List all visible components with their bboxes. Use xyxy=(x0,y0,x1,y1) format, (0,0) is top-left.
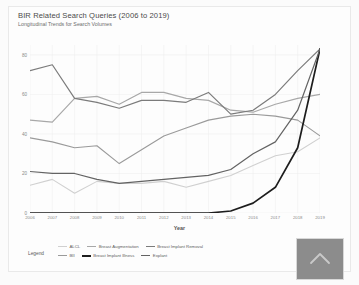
plot-area xyxy=(30,45,320,213)
legend-item[interactable]: Breast Implant Illness xyxy=(82,253,135,258)
y-tick-label: 40 xyxy=(22,131,27,136)
x-axis-title: Year xyxy=(0,225,359,231)
x-tick-label: 2014 xyxy=(204,215,214,220)
x-tick-label: 2010 xyxy=(114,215,124,220)
legend-swatch xyxy=(82,255,91,257)
x-tick-label: 2008 xyxy=(70,215,80,220)
y-tick-label: 80 xyxy=(22,52,27,57)
x-tick-label: 2007 xyxy=(48,215,58,220)
y-axis-tick-labels: 020406080 xyxy=(10,45,27,213)
legend-row: ALCLBreast AugmentationBreast Implant Re… xyxy=(58,242,258,251)
legend-item-label: Breast Augmentation xyxy=(99,244,139,249)
thumbnail-preview[interactable] xyxy=(296,238,344,280)
grid-lines xyxy=(30,45,320,213)
legend-item-label: ALCL xyxy=(70,244,81,249)
x-tick-label: 2009 xyxy=(92,215,102,220)
y-tick-label: 60 xyxy=(22,92,27,97)
y-tick-label: 20 xyxy=(22,171,27,176)
x-tick-label: 2012 xyxy=(159,215,169,220)
legend-row: BIIBreast Implant IllnessExplant xyxy=(58,251,258,260)
legend-swatch xyxy=(87,246,96,247)
legend-swatch xyxy=(141,255,150,256)
screenshot-root: BIR Related Search Queries (2006 to 2019… xyxy=(0,0,359,285)
legend-swatch xyxy=(58,246,67,247)
legend-item[interactable]: Explant xyxy=(141,253,167,258)
chart-title: BIR Related Search Queries (2006 to 2019… xyxy=(18,11,169,20)
legend-item-label: Breast Implant Removal xyxy=(157,244,203,249)
legend-items: ALCLBreast AugmentationBreast Implant Re… xyxy=(58,242,258,260)
legend-item-label: BII xyxy=(70,253,75,258)
x-tick-label: 2013 xyxy=(181,215,191,220)
x-tick-label: 2011 xyxy=(137,215,146,220)
legend-item[interactable]: ALCL xyxy=(58,244,80,249)
x-tick-label: 2019 xyxy=(315,215,325,220)
legend-item-label: Breast Implant Illness xyxy=(93,253,134,258)
x-axis-tick-labels: 2006200720082009201020112012201320142015… xyxy=(30,215,320,225)
x-tick-label: 2016 xyxy=(248,215,258,220)
legend-swatch xyxy=(58,255,67,256)
x-tick-label: 2018 xyxy=(293,215,303,220)
series-lines xyxy=(30,49,320,213)
chevron-up-icon xyxy=(297,239,343,279)
x-tick-label: 2017 xyxy=(271,215,281,220)
chart-subtitle: Longitudinal Trends for Search Volumes xyxy=(18,21,112,27)
legend-item[interactable]: Breast Augmentation xyxy=(87,244,138,249)
legend-swatch xyxy=(146,246,155,247)
x-tick-label: 2006 xyxy=(25,215,35,220)
legend-item-label: Explant xyxy=(153,253,167,258)
x-tick-label: 2015 xyxy=(226,215,236,220)
legend-title: Legend xyxy=(28,251,44,256)
legend-item[interactable]: BII xyxy=(58,253,75,258)
line-chart-svg xyxy=(30,45,320,213)
legend-item[interactable]: Breast Implant Removal xyxy=(146,244,203,249)
